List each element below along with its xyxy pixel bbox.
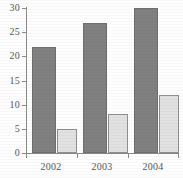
- y-axis-label-15: 15: [0, 76, 20, 86]
- y-axis-label-20: 20: [0, 51, 20, 61]
- bar-2002-series-1: [32, 47, 56, 153]
- plot-area: [27, 8, 179, 153]
- bar-2004-series-2: [159, 95, 179, 153]
- x-axis-label-2002: 2002: [31, 161, 71, 172]
- x-axis-tick-group-1: [77, 153, 78, 158]
- y-axis-label-10: 10: [0, 100, 20, 110]
- x-axis-tick-group-2: [128, 153, 129, 158]
- x-axis-line: [26, 153, 179, 154]
- bar-2003-series-1: [83, 23, 107, 154]
- y-axis-label-5: 5: [0, 124, 20, 134]
- y-axis-label-0: 0: [0, 148, 20, 158]
- y-axis-label-25: 25: [0, 27, 20, 37]
- bar-2004-series-1: [134, 8, 158, 153]
- x-axis-tick-end: [178, 153, 179, 158]
- x-axis-tick-start: [26, 153, 27, 158]
- bar-2002-series-2: [57, 129, 77, 153]
- x-axis-label-2004: 2004: [133, 161, 173, 172]
- bar-2003-series-2: [108, 114, 128, 153]
- bar-chart: 0 5 10 15 20 25 30 2002 2003 2004: [0, 0, 183, 178]
- y-axis-label-30: 30: [0, 3, 20, 13]
- x-axis-label-2003: 2003: [82, 161, 122, 172]
